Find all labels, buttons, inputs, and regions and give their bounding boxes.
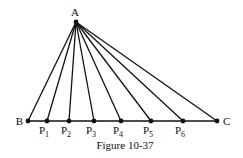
label-p5: P5: [143, 124, 153, 139]
label-p4: P4: [113, 124, 123, 139]
point-c: [215, 119, 220, 124]
point-p4: [119, 119, 124, 124]
label-p1: P1: [39, 124, 49, 139]
point-p3: [92, 119, 97, 124]
figure-caption: Figure 10-37: [96, 139, 154, 151]
label-b: B: [16, 115, 23, 127]
label-a: A: [71, 6, 79, 18]
segment-a-p5: [76, 22, 151, 121]
segment-a-c: [76, 22, 217, 121]
point-p6: [181, 119, 186, 124]
label-p6: P6: [175, 124, 185, 139]
point-p5: [149, 119, 154, 124]
label-p2: P2: [61, 124, 71, 139]
point-p2: [67, 119, 72, 124]
label-p3: P3: [86, 124, 96, 139]
label-c: C: [223, 115, 230, 127]
point-p1: [45, 119, 50, 124]
point-b: [26, 119, 31, 124]
segment-a-p2: [69, 22, 76, 121]
cevian-lines: [28, 22, 217, 121]
apex-point-a: [74, 20, 79, 25]
segment-a-p6: [76, 22, 183, 121]
triangle-figure: A BP1P2P3P4P5P6C Figure 10-37: [0, 0, 243, 158]
